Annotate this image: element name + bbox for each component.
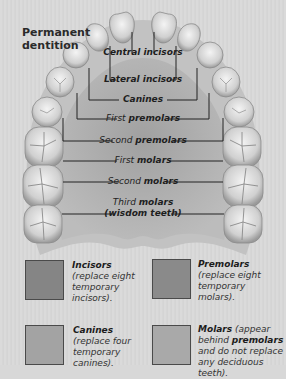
legend-swatch-incisors (25, 260, 64, 300)
label-second-molars: Second molars (108, 176, 179, 187)
legend-swatch-molars (152, 325, 191, 365)
label-central-incisors: Central incisors (103, 47, 182, 58)
label-second-premolars: Second premolars (99, 135, 186, 146)
legend-swatch-premolars (152, 259, 191, 299)
diagram-title: Permanent dentition (22, 26, 90, 52)
legend-canines: Canines (replace four temporary canines)… (73, 325, 131, 369)
label-first-premolars: First premolars (106, 113, 180, 124)
legend-premolars: Premolars (replace eight temporary molar… (198, 259, 261, 303)
legend-molars: Molars (appear behind premolars and do n… (198, 324, 286, 379)
label-third-molars: Third molars (wisdom teeth) (104, 197, 181, 219)
label-canines: Canines (123, 94, 163, 105)
label-first-molars: First molars (115, 155, 172, 166)
legend-swatch-canines (25, 325, 64, 365)
label-lateral-incisors: Lateral incisors (104, 74, 182, 85)
legend-incisors: Incisors (replace eight temporary inciso… (72, 260, 135, 304)
